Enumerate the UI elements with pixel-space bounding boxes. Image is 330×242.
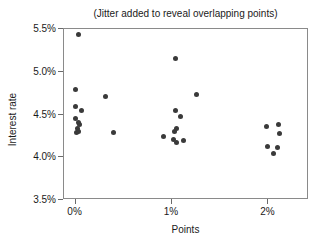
data-point	[181, 138, 186, 143]
y-tick-label: 5.0%	[16, 65, 56, 76]
x-tick-mark	[267, 199, 268, 204]
y-tick-label: 4.5%	[16, 108, 56, 119]
data-point	[103, 94, 108, 99]
data-point	[276, 122, 281, 127]
data-point	[271, 151, 276, 156]
x-tick-mark	[171, 199, 172, 204]
x-tick-mark	[75, 199, 76, 204]
data-point	[275, 145, 280, 150]
data-point	[161, 134, 166, 139]
plot-area	[63, 28, 308, 199]
data-point	[111, 130, 116, 135]
data-point	[173, 56, 178, 61]
data-point	[174, 140, 179, 145]
data-point	[73, 87, 78, 92]
y-tick-label: 4.0%	[16, 151, 56, 162]
y-tick-label: 3.5%	[16, 194, 56, 205]
y-tick-mark	[58, 28, 63, 29]
data-point	[79, 108, 84, 113]
data-point	[178, 114, 183, 119]
x-axis-title: Points	[63, 224, 308, 235]
x-tick-label: 1%	[151, 206, 191, 217]
data-point	[173, 108, 178, 113]
data-point	[73, 104, 78, 109]
data-point	[76, 129, 81, 134]
data-point	[76, 32, 81, 37]
data-point	[194, 92, 199, 97]
y-tick-mark	[58, 156, 63, 157]
x-tick-label: 0%	[55, 206, 95, 217]
data-point	[277, 131, 282, 136]
scatter-plot-figure: (Jitter added to reveal overlapping poin…	[0, 0, 330, 242]
chart-title: (Jitter added to reveal overlapping poin…	[63, 8, 308, 19]
y-tick-mark	[58, 199, 63, 200]
x-tick-label: 2%	[247, 206, 287, 217]
data-point	[264, 124, 269, 129]
data-point	[172, 129, 177, 134]
y-tick-mark	[58, 71, 63, 72]
y-tick-mark	[58, 114, 63, 115]
data-point	[265, 144, 270, 149]
y-tick-label: 5.5%	[16, 23, 56, 34]
